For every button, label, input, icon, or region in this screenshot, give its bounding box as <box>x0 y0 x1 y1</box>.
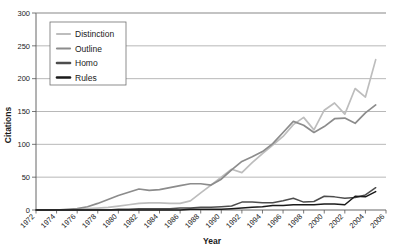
legend-label-rules: Rules <box>75 73 97 83</box>
y-axis-title: Citations <box>3 107 13 144</box>
legend-label-homo: Homo <box>75 58 98 68</box>
legend-label-outline: Outline <box>75 44 102 54</box>
y-tick-label-200: 200 <box>17 74 30 83</box>
x-tick-label-2002: 2002 <box>327 212 345 230</box>
y-tick-label-50: 50 <box>22 173 30 182</box>
x-tick-label-1998: 1998 <box>286 212 304 230</box>
y-tick-label-150: 150 <box>17 107 30 116</box>
x-tick-label-1976: 1976 <box>59 212 77 230</box>
chart-canvas: 050100150200250300 197219741976197819801… <box>0 0 408 250</box>
y-tick-label-250: 250 <box>17 42 30 51</box>
x-tick-label-1988: 1988 <box>183 212 201 230</box>
y-tick-label-300: 300 <box>17 9 30 18</box>
x-tick-label-1984: 1984 <box>142 212 160 230</box>
x-tick-label-1990: 1990 <box>204 212 222 230</box>
x-tick-label-1982: 1982 <box>121 212 139 230</box>
x-tick-label-1986: 1986 <box>162 212 180 230</box>
x-axis-ticks: 1972197419761978198019821984198619881990… <box>18 210 386 230</box>
x-tick-label-1980: 1980 <box>101 212 119 230</box>
x-tick-label-1994: 1994 <box>245 212 263 230</box>
x-tick-label-1978: 1978 <box>80 212 98 230</box>
x-axis-title: Year <box>203 236 222 246</box>
legend-label-distinction: Distinction <box>75 29 114 39</box>
x-tick-label-1972: 1972 <box>18 212 36 230</box>
series-line-outline <box>36 105 376 210</box>
x-tick-label-2006: 2006 <box>368 212 386 230</box>
x-tick-label-2004: 2004 <box>348 212 366 230</box>
x-tick-label-1974: 1974 <box>39 212 57 230</box>
chart-legend: DistinctionOutlineHomoRules <box>50 22 126 85</box>
citations-line-chart: 050100150200250300 197219741976197819801… <box>0 0 408 250</box>
x-tick-label-2000: 2000 <box>306 212 324 230</box>
y-axis-ticks: 050100150200250300 <box>17 9 36 215</box>
y-tick-label-100: 100 <box>17 140 30 149</box>
x-tick-label-1996: 1996 <box>265 212 283 230</box>
x-tick-label-1992: 1992 <box>224 212 242 230</box>
